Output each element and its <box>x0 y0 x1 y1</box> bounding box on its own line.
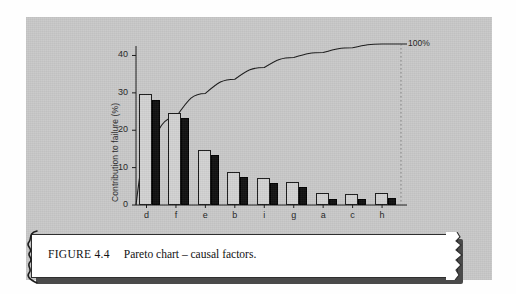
bar-solid-d <box>152 100 160 205</box>
y-tick-label: 30 <box>110 87 128 97</box>
bar-solid-g <box>299 187 307 205</box>
figure-page: Contribution to failure (%) 010203040 df… <box>0 0 516 294</box>
bar-open-f <box>168 113 181 205</box>
bar-open-b <box>227 172 240 205</box>
bar-solid-a <box>329 199 337 205</box>
bar-open-h <box>375 193 388 205</box>
figure-number: FIGURE 4.4 <box>48 248 110 260</box>
x-tick-label-h: h <box>374 210 390 220</box>
bar-solid-i <box>270 183 278 205</box>
x-tick-label-e: e <box>197 210 213 220</box>
y-tick-label: 10 <box>110 162 128 172</box>
y-tick-label: 20 <box>110 124 128 134</box>
x-tick-label-g: g <box>286 210 302 220</box>
bar-open-i <box>257 178 270 205</box>
cumulative-100-percent-label: 100% <box>408 38 430 48</box>
bar-open-d <box>139 94 152 205</box>
squiggle-bracket-icon <box>20 228 46 286</box>
bar-open-g <box>286 182 299 205</box>
bar-solid-e <box>211 155 219 205</box>
bar-solid-h <box>388 198 396 205</box>
figure-caption-text: FIGURE 4.4Pareto chart – causal factors. <box>48 248 256 260</box>
bar-solid-f <box>181 118 189 205</box>
x-tick-label-b: b <box>227 210 243 220</box>
bar-open-c <box>345 194 358 205</box>
x-tick-label-d: d <box>139 210 155 220</box>
bar-solid-b <box>240 177 248 205</box>
bar-open-e <box>198 150 211 205</box>
y-tick-label: 40 <box>110 49 128 59</box>
torn-edge-decoration <box>446 232 470 280</box>
x-tick-label-i: i <box>256 210 272 220</box>
x-tick-label-a: a <box>315 210 331 220</box>
bar-solid-c <box>358 199 366 205</box>
bar-open-a <box>316 193 329 205</box>
x-tick-label-c: c <box>345 210 361 220</box>
figure-caption-body: Pareto chart – causal factors. <box>124 248 257 260</box>
y-tick-label: 0 <box>110 199 128 209</box>
figure-caption-box: FIGURE 4.4Pareto chart – causal factors. <box>31 234 458 278</box>
x-tick-label-f: f <box>168 210 184 220</box>
